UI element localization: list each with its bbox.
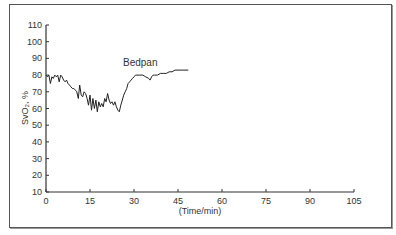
- y-tick-label: 90: [32, 53, 42, 63]
- y-tick-label: 100: [27, 37, 42, 47]
- x-axis: 0153045607590105: [43, 189, 361, 206]
- y-axis: 102030405060708090100110: [27, 20, 49, 197]
- y-tick-label: 50: [32, 120, 42, 130]
- y-tick-label: 80: [32, 70, 42, 80]
- x-tick-label: 30: [129, 196, 139, 206]
- svo2-trace-line: [46, 70, 188, 112]
- y-tick-label: 20: [32, 170, 42, 180]
- x-axis-title: (Time/min): [179, 206, 222, 216]
- x-tick-label: 90: [305, 196, 315, 206]
- y-tick-label: 70: [32, 87, 42, 97]
- svo2-line-chart: 102030405060708090100110 015304560759010…: [0, 0, 396, 235]
- x-tick-label: 60: [217, 196, 227, 206]
- y-tick-label: 110: [28, 20, 42, 30]
- y-tick-label: 10: [32, 187, 42, 197]
- x-tick-label: 75: [261, 196, 271, 206]
- y-axis-title: SvO₂, %: [20, 91, 30, 125]
- x-tick-label: 15: [85, 196, 95, 206]
- bedpan-annotation: Bedpan: [123, 57, 157, 68]
- y-tick-label: 60: [32, 104, 42, 114]
- x-tick-label: 105: [346, 196, 361, 206]
- y-tick-label: 40: [32, 137, 42, 147]
- x-tick-label: 45: [173, 196, 183, 206]
- x-tick-label: 0: [43, 196, 48, 206]
- y-tick-label: 30: [32, 154, 42, 164]
